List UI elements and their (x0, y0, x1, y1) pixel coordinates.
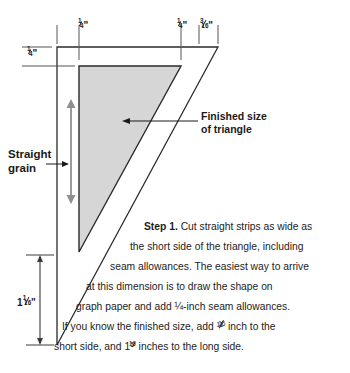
dimension-label-left-seam: 14" (27, 48, 37, 59)
instruction-line-6: If you know the finished size, add 1116 … (62, 317, 348, 337)
instruction-line-6-a: If you know the finished size, add (62, 321, 217, 332)
instruction-line-3: seam allowances. The easiest way to arri… (100, 257, 348, 277)
callout-finished-size: Finished sizeof triangle (201, 110, 311, 137)
instruction-line-5-b: -inch seam allowances. (183, 301, 290, 312)
callout-finished-size-line1: Finished size (201, 110, 267, 122)
instruction-line-1-rest: Cut straight strips as wide as (178, 221, 312, 232)
instruction-line-6-fraction: 1116 (217, 321, 226, 330)
callout-straight-grain-line2: grain (8, 162, 36, 174)
figure-canvas: 14" 14" 316" 14" 1116" Straightgrain Fin… (0, 0, 350, 373)
callout-straight-grain-line1: Straight (8, 148, 51, 160)
instruction-line-4: at this dimension is to draw the shape o… (86, 277, 348, 297)
dimension-label-top-left-seam: 14" (78, 20, 88, 31)
instruction-line-7-b: inches to the long side. (136, 341, 244, 352)
instruction-paragraph: Step 1. Cut straight strips as wide as t… (100, 217, 348, 358)
instruction-line-7: short side, and 1516 inches to the long … (54, 337, 348, 357)
step-label: Step 1. (144, 221, 178, 232)
callout-finished-size-line2: of triangle (201, 123, 252, 135)
dimension-label-top-mid-seam: 14" (177, 20, 187, 31)
instruction-line-6-b: inch to the (225, 321, 275, 332)
dimension-label-top-right-seam: 316" (200, 20, 213, 31)
instruction-line-2: the short side of the triangle, includin… (100, 237, 348, 257)
short-side-dimension-arrow (37, 255, 43, 345)
instruction-line-5: graph paper and add ¼-inch seam allowanc… (76, 297, 348, 317)
instruction-line-7-a: short side, and 1 (54, 341, 130, 352)
instruction-line-1: Step 1. Cut straight strips as wide as (100, 217, 348, 237)
instruction-line-5-a: graph paper and add (76, 301, 174, 312)
dimension-label-short-side: 1116" (17, 297, 36, 308)
instruction-line-5-fraction: ¼ (174, 301, 183, 312)
instruction-line-7-fraction: 516 (130, 341, 136, 350)
callout-straight-grain: Straightgrain (8, 148, 70, 175)
